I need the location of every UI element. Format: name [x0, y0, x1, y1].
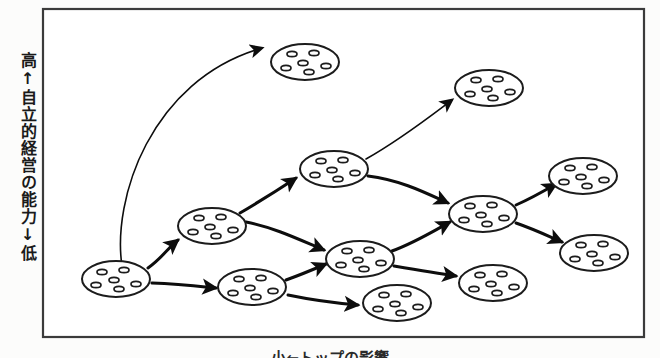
node-group-bottom-right[interactable] — [459, 265, 527, 301]
node-dot — [505, 89, 515, 94]
node-dot — [492, 290, 502, 295]
node-dot — [119, 267, 129, 272]
node-group-far-right-low[interactable] — [560, 235, 628, 271]
node-dot — [379, 292, 389, 297]
node-dot — [486, 281, 496, 286]
node-dot — [228, 290, 238, 295]
node-dot — [396, 310, 406, 315]
node-dot — [309, 50, 319, 55]
node-dot — [304, 69, 314, 74]
node-dot — [359, 266, 369, 271]
node-group-top-right[interactable] — [455, 70, 523, 106]
node-dot — [587, 251, 597, 256]
node-dot — [471, 77, 481, 82]
node-group-mid-left[interactable] — [178, 208, 246, 244]
node-dot — [582, 183, 592, 188]
node-group-bottom-second[interactable] — [218, 269, 286, 305]
node-dot — [376, 260, 386, 265]
node-dot — [298, 60, 308, 65]
node-dot — [599, 177, 609, 182]
node-dot — [251, 294, 261, 299]
node-dot — [487, 202, 497, 207]
node-dot — [245, 285, 255, 290]
node-dot — [570, 256, 580, 261]
node-dot — [559, 179, 569, 184]
node-group-center-upper[interactable] — [300, 151, 368, 187]
node-dot — [465, 203, 475, 208]
node-dot — [268, 288, 278, 293]
figure-page: 高↑自立的経営の能力↓低 — [0, 0, 660, 358]
node-dot — [131, 281, 141, 286]
node-dot — [401, 291, 411, 296]
node-dot — [350, 170, 360, 175]
node-dot — [281, 65, 291, 70]
node-dot — [194, 215, 204, 220]
node-dot — [91, 282, 101, 287]
node-group-lower-left[interactable] — [82, 261, 150, 297]
node-dot — [465, 91, 475, 96]
node-dot — [413, 304, 423, 309]
node-dot — [469, 286, 479, 291]
node-dot — [610, 254, 620, 259]
node-dot — [327, 167, 337, 172]
node-dot — [287, 51, 297, 56]
node-group-top-left[interactable] — [271, 44, 339, 80]
node-dot — [488, 95, 498, 100]
node-dot — [336, 262, 346, 267]
node-dot — [509, 284, 519, 289]
node-dot — [576, 174, 586, 179]
node-dot — [598, 241, 608, 246]
node-dot — [216, 214, 226, 219]
node-dot — [373, 306, 383, 311]
node-dot — [497, 271, 507, 276]
node-dot — [188, 229, 198, 234]
node-dot — [587, 164, 597, 169]
node-dot — [565, 165, 575, 170]
node-dot — [310, 172, 320, 177]
node-dot — [109, 277, 119, 282]
node-dot — [234, 276, 244, 281]
node-dot — [482, 221, 492, 226]
node-dot — [211, 233, 221, 238]
node-group-center-lower[interactable] — [326, 241, 394, 277]
node-dot — [499, 215, 509, 220]
node-dot — [316, 158, 326, 163]
node-dot — [482, 86, 492, 91]
node-dot — [97, 269, 107, 274]
node-dot — [256, 275, 266, 280]
node-dot — [576, 242, 586, 247]
node-dot — [390, 301, 400, 306]
node-dot — [342, 248, 352, 253]
node-group-right-hub[interactable] — [449, 196, 517, 232]
node-dot — [205, 224, 215, 229]
node-dot — [228, 227, 238, 232]
node-dot — [475, 272, 485, 277]
node-dot — [459, 217, 469, 222]
x-axis-label: 小←トップの影響 — [0, 346, 660, 358]
node-dot — [338, 157, 348, 162]
node-group-bottom-center[interactable] — [363, 285, 431, 321]
node-dot — [364, 247, 374, 252]
node-dot — [476, 212, 486, 217]
node-dot — [353, 257, 363, 262]
node-dot — [114, 286, 124, 291]
node-dot — [321, 63, 331, 68]
node-dot — [593, 260, 603, 265]
diagram-canvas — [0, 0, 660, 358]
node-group-far-right-top[interactable] — [549, 158, 617, 194]
node-dot — [333, 176, 343, 181]
node-dot — [493, 76, 503, 81]
